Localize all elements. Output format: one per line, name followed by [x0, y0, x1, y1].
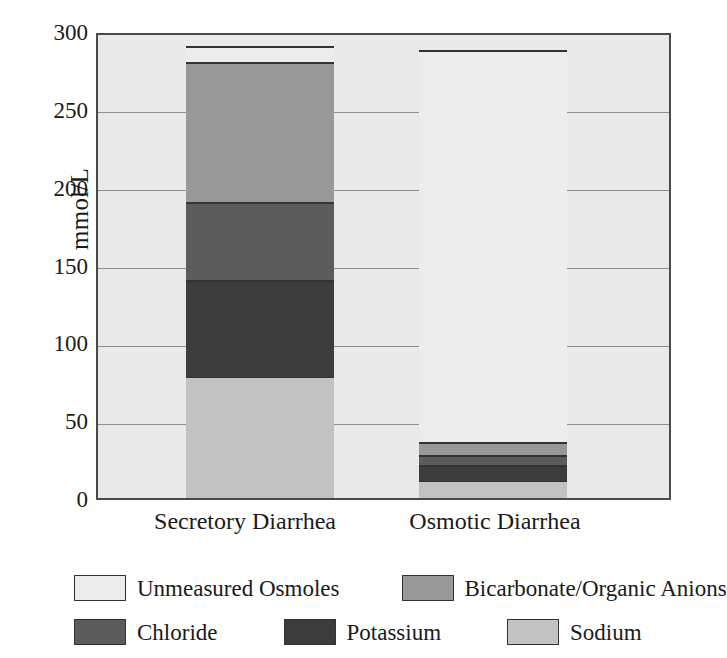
bar-segment-secretory-chloride[interactable]: [186, 202, 334, 280]
bar-segment-osmotic-unmeasured-osmoles[interactable]: [419, 50, 567, 442]
legend-swatch-unmeasured-osmoles: [74, 575, 126, 601]
legend-swatch-chloride: [74, 619, 126, 645]
legend-swatch-potassium: [284, 619, 336, 645]
legend-row-1: Unmeasured Osmoles Bicarbonate/Organic A…: [74, 568, 674, 608]
gridline-250: [98, 112, 669, 113]
bar-secretory-diarrhea[interactable]: [186, 47, 334, 498]
chart-legend: Unmeasured Osmoles Bicarbonate/Organic A…: [74, 568, 674, 652]
y-tick-label-100: 100: [18, 332, 88, 355]
x-tick-label-osmotic-diarrhea: Osmotic Diarrhea: [360, 508, 630, 535]
bar-osmotic-diarrhea[interactable]: [419, 51, 567, 498]
y-tick-label-150: 150: [18, 255, 88, 278]
y-tick-label-0: 0: [18, 488, 88, 511]
gridline-150: [98, 268, 669, 269]
bar-segment-osmotic-sodium[interactable]: [419, 480, 567, 498]
legend-swatch-bicarbonate-organic-anions: [402, 575, 454, 601]
bar-segment-secretory-bicarbonate[interactable]: [186, 62, 334, 202]
legend-swatch-sodium: [507, 619, 559, 645]
bar-segment-secretory-potassium[interactable]: [186, 280, 334, 377]
legend-entry-unmeasured-osmoles[interactable]: Unmeasured Osmoles: [74, 575, 340, 601]
y-tick-label-50: 50: [18, 410, 88, 433]
legend-entry-sodium[interactable]: Sodium: [507, 619, 642, 645]
legend-entry-bicarbonate-organic-anions[interactable]: Bicarbonate/Organic Anions: [402, 575, 727, 601]
y-tick-label-250: 250: [18, 99, 88, 122]
legend-label-potassium: Potassium: [347, 621, 442, 644]
bar-segment-secretory-unmeasured-osmoles[interactable]: [186, 46, 334, 62]
gridline-50: [98, 424, 669, 425]
legend-row-2: Chloride Potassium Sodium: [74, 612, 674, 652]
x-tick-label-secretory-diarrhea: Secretory Diarrhea: [110, 508, 380, 535]
legend-entry-potassium[interactable]: Potassium: [284, 619, 442, 645]
bar-segment-osmotic-bicarbonate[interactable]: [419, 442, 567, 455]
gridline-100: [98, 346, 669, 347]
y-tick-label-300: 300: [18, 21, 88, 44]
legend-label-bicarbonate-organic-anions: Bicarbonate/Organic Anions: [465, 577, 727, 600]
legend-label-sodium: Sodium: [570, 621, 642, 644]
gridline-200: [98, 190, 669, 191]
legend-label-unmeasured-osmoles: Unmeasured Osmoles: [137, 577, 340, 600]
legend-label-chloride: Chloride: [137, 621, 218, 644]
legend-entry-chloride[interactable]: Chloride: [74, 619, 218, 645]
bar-segment-secretory-sodium[interactable]: [186, 376, 334, 498]
plot-area: [96, 33, 671, 500]
bar-segment-osmotic-potassium[interactable]: [419, 465, 567, 481]
y-tick-label-200: 200: [18, 177, 88, 200]
bar-segment-osmotic-chloride[interactable]: [419, 455, 567, 465]
